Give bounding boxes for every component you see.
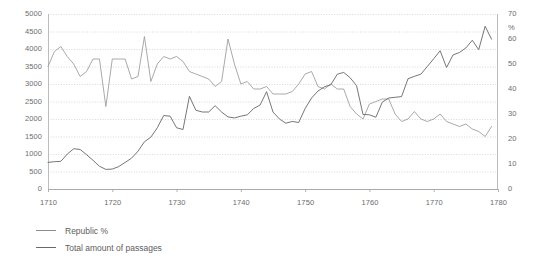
y2-axis-tick-label: 40: [508, 84, 517, 93]
y2-axis-tick-label: 0: [508, 184, 512, 193]
y-axis-tick-label: 3500: [0, 62, 42, 71]
y2-axis-tick-label: 10: [508, 159, 517, 168]
x-axis-tick-label: 1720: [99, 198, 127, 207]
y-axis-tick-label: 2000: [0, 114, 42, 123]
x-axis-tick-label: 1750: [292, 198, 320, 207]
y-axis-tick-label: 0: [0, 184, 42, 193]
legend-label: Total amount of passages: [65, 243, 162, 253]
legend-swatch-line: [36, 230, 56, 231]
y2-axis-tick-label: 60: [508, 34, 517, 43]
y2-axis-tick-label: 30: [508, 109, 517, 118]
y-axis-tick-label: 1500: [0, 132, 42, 141]
series-line-republic-percent: [48, 37, 492, 137]
legend-swatch-line: [36, 247, 56, 248]
legend-item-republic: Republic %: [36, 222, 162, 239]
chart-legend: Republic % Total amount of passages: [36, 222, 162, 256]
x-axis-tick-label: 1770: [420, 198, 448, 207]
x-axis-tick-label: 1760: [356, 198, 384, 207]
x-axis-tick-label: 1740: [227, 198, 255, 207]
y-axis-tick-label: 1000: [0, 149, 42, 158]
y2-axis-tick-label: 50: [508, 59, 517, 68]
series-line-total-passages: [48, 26, 492, 169]
legend-label: Republic %: [65, 226, 108, 236]
chart-figure: Republic % Total amount of passages 0500…: [0, 0, 553, 271]
y-axis-tick-label: 4000: [0, 44, 42, 53]
y2-axis-tick-label: 20: [508, 134, 517, 143]
y-axis-tick-label: 5000: [0, 9, 42, 18]
y-axis-tick-label: 2500: [0, 97, 42, 106]
legend-item-passages: Total amount of passages: [36, 239, 162, 256]
y-axis-tick-label: 4500: [0, 27, 42, 36]
x-axis-tick-label: 1780: [485, 198, 513, 207]
y-axis-tick-label: 3000: [0, 79, 42, 88]
y2-axis-tick-label: 70: [508, 9, 517, 18]
y2-axis-unit-label: %: [508, 23, 515, 32]
x-axis-tick-label: 1730: [163, 198, 191, 207]
y-axis-tick-label: 500: [0, 167, 42, 176]
x-axis-tick-label: 1710: [35, 198, 63, 207]
